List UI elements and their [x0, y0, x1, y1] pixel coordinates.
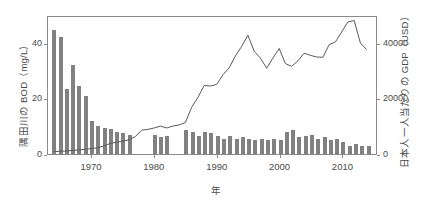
- x-tick: [91, 155, 92, 158]
- gdp-line-svg: [48, 17, 376, 154]
- x-tick-label: 1970: [80, 161, 101, 172]
- y-tick-left: [44, 99, 47, 100]
- y-tick-label-left: 0: [11, 149, 42, 159]
- x-tick-label: 1990: [206, 161, 227, 172]
- y-tick-right: [377, 44, 380, 45]
- y-tick-label-right: 20000: [383, 93, 408, 103]
- y-tick-right: [377, 99, 380, 100]
- y-tick-label-right: 40000: [383, 38, 408, 48]
- y-tick-left: [44, 155, 47, 156]
- y-tick-label-left: 40: [11, 38, 42, 48]
- line-series: [48, 17, 376, 154]
- y-tick-label-left: 20: [11, 93, 42, 103]
- y-tick-right: [377, 155, 380, 156]
- x-tick-label: 1980: [143, 161, 164, 172]
- x-tick: [342, 155, 343, 158]
- x-tick: [280, 155, 281, 158]
- x-tick-label: 2010: [332, 161, 353, 172]
- x-tick: [154, 155, 155, 158]
- x-tick-label: 2000: [269, 161, 290, 172]
- y-tick-label-right: 0: [383, 149, 388, 159]
- y-tick-left: [44, 44, 47, 45]
- plot-area: [47, 16, 377, 155]
- x-tick: [217, 155, 218, 158]
- gdp-polyline: [54, 21, 366, 152]
- x-axis-label: 年: [0, 183, 431, 197]
- chart-figure: 隅田川の BOD（mg/L） 日本人一人当たりの GDP（USD） 年 0204…: [0, 0, 431, 211]
